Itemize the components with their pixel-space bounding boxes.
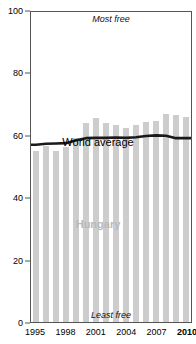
- x-axis: 199519982001200420072010: [30, 325, 192, 344]
- x-axis-tick-label: 2004: [116, 327, 136, 337]
- series-label-world-average: World average: [62, 136, 133, 148]
- y-axis-tick-label: 40: [13, 193, 23, 203]
- plot-area: Most free Least free: [30, 11, 192, 323]
- annotation-most-free: Most free: [92, 14, 130, 24]
- y-axis: 020406080100: [0, 0, 30, 344]
- x-axis-tick-label: 1998: [55, 327, 75, 337]
- series-label-hungary: Hungary: [76, 218, 121, 230]
- x-axis-tick-label: 1995: [25, 327, 45, 337]
- line-series-world-average: [31, 12, 191, 322]
- economic-freedom-chart: y 020406080100 Most free Least free Worl…: [0, 0, 196, 344]
- x-axis-tick-label: 2010: [177, 327, 196, 337]
- x-axis-tick-label: 2007: [147, 327, 167, 337]
- y-axis-tick-label: 0: [18, 318, 23, 328]
- y-axis-tick-label: 100: [8, 6, 23, 16]
- y-axis-tick-label: 60: [13, 131, 23, 141]
- y-axis-tick-label: 20: [13, 256, 23, 266]
- y-axis-tick-label: 80: [13, 68, 23, 78]
- x-axis-tick-label: 2001: [86, 327, 106, 337]
- annotation-least-free: Least free: [91, 310, 131, 320]
